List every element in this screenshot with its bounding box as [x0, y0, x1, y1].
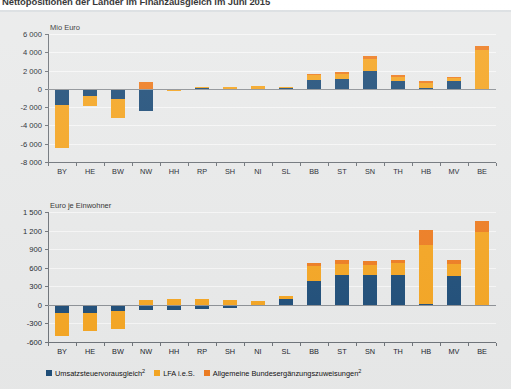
- x-axis-category-label: BE: [477, 167, 487, 176]
- x-axis-category-label: NI: [254, 167, 261, 176]
- bar-segment: [335, 72, 349, 74]
- bar-segment: [307, 263, 321, 266]
- chart-unit-label-top: Mio Euro: [50, 23, 80, 32]
- x-axis-category-label: HH: [169, 167, 180, 176]
- x-axis-tick: [244, 343, 245, 346]
- x-axis-tick: [76, 343, 77, 346]
- chart-panel-euro-je-einwohner: Euro je Einwohner 1 5001 2009006003000-3…: [0, 192, 511, 389]
- plot-area-mio-euro: 6 0004 0002 0000-2 000-4 000-6 000-8 000…: [48, 34, 496, 162]
- y-axis-tick-label: -2 000: [0, 103, 42, 112]
- y-axis-tick-label: 1 500: [0, 208, 42, 217]
- bar-segment: [419, 230, 433, 245]
- x-axis-category-label: MV: [449, 347, 460, 356]
- bar-segment: [335, 79, 349, 89]
- legend-swatch-icon: [204, 370, 210, 376]
- x-axis-tick: [188, 163, 189, 166]
- bar-segment: [279, 296, 293, 299]
- gridline: [48, 212, 496, 213]
- bar-segment: [55, 313, 69, 336]
- y-axis-tick-label: 0: [0, 300, 42, 309]
- bar-segment: [55, 89, 69, 105]
- bar-segment: [335, 264, 349, 275]
- bar-segment: [307, 74, 321, 75]
- bar-segment: [475, 46, 489, 51]
- bar-segment: [335, 260, 349, 264]
- gridline: [48, 34, 496, 35]
- bar-segment: [419, 245, 433, 303]
- legend-label: LFA i.e.S.: [163, 369, 195, 378]
- x-axis-tick: [300, 163, 301, 166]
- legend-footnote-marker: 2: [142, 368, 145, 374]
- bar-segment: [167, 90, 181, 91]
- x-axis-tick: [104, 163, 105, 166]
- bar-segment: [391, 275, 405, 305]
- legend-item: LFA i.e.S.: [154, 369, 195, 378]
- x-axis-tick: [216, 163, 217, 166]
- x-axis-category-label: TH: [393, 167, 403, 176]
- bar-segment: [419, 81, 433, 83]
- x-axis-category-label: BW: [112, 347, 124, 356]
- bar-segment: [363, 59, 377, 71]
- x-axis-category-label: HB: [421, 167, 431, 176]
- y-axis-tick-label: 0: [0, 84, 42, 93]
- x-axis-tick: [104, 343, 105, 346]
- y-axis-tick-label: 4 000: [0, 48, 42, 57]
- bar-segment: [447, 264, 461, 276]
- bar-segment: [447, 260, 461, 264]
- chart-page: Nettopositionen der Länder im Finanzausg…: [0, 0, 511, 389]
- legend-item: Umsatzsteuervorausgleich2: [46, 368, 145, 378]
- x-axis-category-label: SN: [365, 347, 375, 356]
- bar-segment: [363, 265, 377, 276]
- x-axis-category-label: TH: [393, 347, 403, 356]
- bar-segment: [307, 281, 321, 305]
- bar-segment: [475, 221, 489, 232]
- y-axis-tick-label: -600: [0, 338, 42, 347]
- bar-segment: [447, 77, 461, 78]
- bar-segment: [447, 276, 461, 305]
- y-axis-tick-label: 300: [0, 282, 42, 291]
- y-axis-line: [48, 212, 49, 342]
- bar-segment: [139, 89, 153, 111]
- bar-segment: [363, 56, 377, 59]
- bar-segment: [391, 75, 405, 77]
- y-axis-tick-label: 900: [0, 245, 42, 254]
- gridline: [48, 125, 496, 126]
- x-axis-tick: [496, 343, 497, 346]
- bar-segment: [363, 71, 377, 88]
- x-axis-category-label: ST: [337, 347, 346, 356]
- bar-segment: [447, 81, 461, 89]
- bar-segment: [475, 232, 489, 305]
- y-axis-line: [48, 34, 49, 162]
- x-axis-tick: [384, 343, 385, 346]
- x-axis-tick: [468, 163, 469, 166]
- x-axis-category-label: HH: [169, 347, 180, 356]
- legend-footnote-marker: 2: [358, 368, 361, 374]
- zero-line: [48, 89, 496, 90]
- x-axis-tick: [272, 163, 273, 166]
- x-axis-category-label: HE: [85, 167, 95, 176]
- x-axis-tick: [244, 163, 245, 166]
- bar-segment: [83, 313, 97, 332]
- y-axis-tick-label: -8 000: [0, 158, 42, 167]
- x-axis-category-label: BY: [57, 167, 67, 176]
- x-axis-category-label: BY: [57, 347, 67, 356]
- x-axis-tick: [216, 343, 217, 346]
- y-axis-tick-label: -300: [0, 319, 42, 328]
- x-axis-tick: [356, 343, 357, 346]
- x-axis-category-label: SH: [225, 347, 235, 356]
- x-axis-tick: [48, 163, 49, 166]
- bar-segment: [307, 80, 321, 89]
- bar-segment: [363, 275, 377, 304]
- zero-line: [48, 305, 496, 306]
- bar-segment: [391, 260, 405, 264]
- x-axis-tick: [384, 163, 385, 166]
- bar-segment: [307, 75, 321, 80]
- x-axis-tick: [300, 343, 301, 346]
- bar-segment: [447, 78, 461, 81]
- x-axis-tick: [160, 163, 161, 166]
- bar-segment: [139, 82, 153, 89]
- x-axis-category-label: SH: [225, 167, 235, 176]
- x-axis-tick: [412, 163, 413, 166]
- gridline: [48, 71, 496, 72]
- legend-label: Umsatzsteuervorausgleich2: [55, 368, 145, 378]
